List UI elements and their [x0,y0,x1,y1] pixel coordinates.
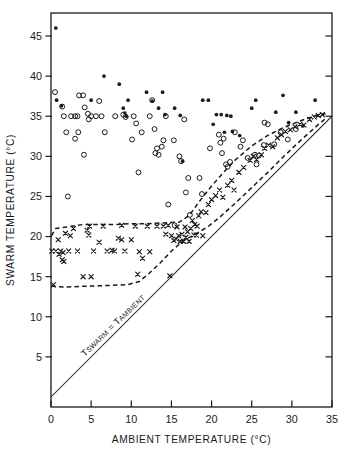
data-point-open-circle [238,144,243,149]
data-point-cross [120,223,124,227]
data-point-filled-circle [102,74,106,78]
data-point-cross [209,198,213,202]
data-point-open-circle [199,192,204,197]
data-point-filled-circle [117,82,121,86]
data-point-open-circle [155,146,160,151]
data-point-open-circle [186,176,191,181]
x-tick-label: 30 [286,413,298,425]
data-point-cross [201,234,205,238]
data-point-filled-circle [125,114,129,118]
data-point-open-circle [166,202,171,207]
identity-line-path [51,116,332,397]
data-point-cross [187,239,191,243]
data-point-cross [62,259,66,263]
data-point-filled-circle [55,98,59,102]
data-point-filled-circle [274,110,278,114]
data-point-cross [91,249,95,253]
data-point-filled-circle [54,26,58,30]
data-point-open-circle [65,194,70,199]
data-point-open-circle [254,162,259,167]
data-point-open-circle [159,144,164,149]
data-point-cross [283,129,287,133]
data-point-open-circle [285,137,290,142]
y-axis-ticks: 51015202530354045 [30,30,332,363]
data-point-open-circle [171,138,176,143]
y-tick-label: 15 [30,271,42,283]
data-point-filled-circle [145,90,149,94]
data-point-cross [148,250,152,254]
data-point-cross [123,249,127,253]
envelope-lower-path [51,118,326,287]
data-point-open-circle [221,136,226,141]
x-tick-label: 35 [326,413,338,425]
identity-line [51,116,332,397]
data-point-open-circle [113,114,118,119]
data-point-open-circle [183,190,188,195]
data-point-filled-circle [215,113,219,117]
x-tick-label: 15 [165,413,177,425]
data-point-cross [237,170,241,174]
y-tick-label: 45 [30,30,42,42]
x-tick-label: 0 [48,413,54,425]
data-point-filled-circle [157,106,161,110]
y-tick-label: 30 [30,150,42,162]
data-point-cross [221,195,225,199]
data-point-open-circle [131,114,136,119]
data-point-cross [81,275,85,279]
data-point-cross [169,234,173,238]
data-point-filled-circle [211,122,215,126]
data-point-open-circle [64,130,69,135]
data-point-cross [168,274,172,278]
data-point-cross [67,249,71,253]
data-point-open-circle [152,127,157,132]
data-point-open-circle [136,170,141,175]
data-point-cross [206,202,210,206]
data-point-cross [213,194,217,198]
data-point-open-circle [102,130,107,135]
data-point-cross [56,238,60,242]
y-tick-label: 40 [30,70,42,82]
data-point-filled-circle [219,113,223,117]
data-point-open-circle [130,137,135,142]
data-point-filled-circle [294,110,298,114]
data-point-open-circle [99,114,104,119]
data-point-open-circle [182,117,187,122]
data-point-cross [50,249,54,253]
identity-line-annotation-text: TSWARM = TAMBIENT [79,292,147,358]
data-point-open-circle [61,114,66,119]
y-tick-label: 10 [30,311,42,323]
data-point-cross [136,272,140,276]
x-tick-label: 5 [88,413,94,425]
data-point-filled-circle [238,134,242,138]
data-point-open-circle [208,146,213,151]
y-tick-label: 5 [36,351,42,363]
data-point-filled-circle [201,98,205,102]
x-tick-label: 10 [125,413,137,425]
data-point-cross [137,250,141,254]
data-point-open-circle [139,130,144,135]
data-point-cross [254,157,258,161]
data-point-filled-circle [123,111,127,115]
x-axis-ticks: 05101520253035 [48,401,338,426]
data-point-open-circle [161,138,166,143]
data-point-cross [155,224,159,228]
data-point-filled-circle [313,98,317,102]
data-point-cross [266,143,270,147]
data-point-open-circle [73,136,78,141]
data-point-cross [232,188,236,192]
data-point-cross [164,232,168,236]
data-point-cross [226,183,230,187]
data-point-filled-circle [178,114,182,118]
chart-figure: 05101520253035 51015202530354045 TSWARM … [0,0,350,458]
data-point-cross [204,210,208,214]
data-point-open-circle [53,90,58,95]
data-point-cross [189,226,193,230]
data-point-open-circle [134,121,139,126]
data-point-cross [97,240,101,244]
series-open-circle-points [53,90,299,228]
data-point-cross [145,224,149,228]
data-point-filled-circle [231,130,235,134]
data-point-cross [87,233,91,237]
data-point-filled-circle [89,98,93,102]
data-point-filled-circle [161,90,165,94]
